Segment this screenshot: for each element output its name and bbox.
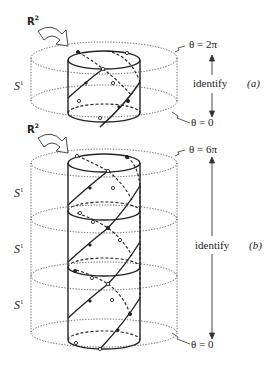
helix-front-a <box>68 69 140 127</box>
panel-a: R2 S1 θ = 2π θ = 0 identify (a) <box>14 14 260 128</box>
theta-leaders-b <box>172 150 190 344</box>
circle-label-a: S1 <box>14 79 24 93</box>
panel-b: R2 S1 S1 S1 θ = 6π θ = 0 identify (b) <box>14 122 262 351</box>
circle-label-b-2: S1 <box>14 242 24 256</box>
circle-label-b-1: S1 <box>14 186 24 200</box>
panel-tag-b: (b) <box>249 239 262 252</box>
plane-label-b: R2 <box>27 122 39 135</box>
helix-back-b <box>76 156 140 314</box>
inner-cylinder-a-back-bottom <box>68 104 140 113</box>
plane-label-a: R2 <box>27 14 39 27</box>
outer-dotted-cylinder-a <box>31 42 177 117</box>
cylinder-identification-diagram: R2 S1 θ = 2π θ = 0 identify (a) <box>0 0 274 366</box>
plane-arrow-icon-b <box>38 134 68 153</box>
theta-top-label-a: θ = 2π <box>189 38 217 50</box>
helix-back-a <box>78 51 140 96</box>
outer-dotted-cylinder-b <box>31 149 177 347</box>
identify-label-b: identify <box>195 239 230 251</box>
panel-tag-a: (a) <box>247 77 260 90</box>
theta-bottom-label-b: θ = 0 <box>191 338 214 350</box>
identify-label-a: identify <box>193 77 228 89</box>
theta-top-label-b: θ = 6π <box>189 143 217 155</box>
helix-front-b <box>68 171 140 349</box>
plane-arrow-icon-a <box>38 27 68 46</box>
inner-cylinder-a <box>68 51 140 122</box>
theta-bottom-label-a: θ = 0 <box>191 116 214 128</box>
theta-leaders-a <box>172 46 190 123</box>
circle-label-b-3: S1 <box>14 298 24 312</box>
